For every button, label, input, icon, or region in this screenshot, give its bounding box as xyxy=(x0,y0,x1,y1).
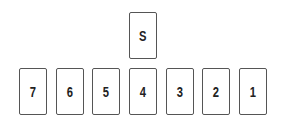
card-label: 6 xyxy=(67,84,73,100)
card-5: 5 xyxy=(92,68,120,115)
card-4: 4 xyxy=(129,68,157,115)
card-label: 7 xyxy=(30,84,36,100)
card-label: 2 xyxy=(213,84,219,100)
card-label: 5 xyxy=(103,84,109,100)
card-6: 6 xyxy=(56,68,84,115)
card-1: 1 xyxy=(239,68,267,115)
card-label: S xyxy=(139,28,146,44)
card-label: 3 xyxy=(177,84,183,100)
card-2: 2 xyxy=(202,68,230,115)
card-7: 7 xyxy=(19,68,47,115)
card-label: 4 xyxy=(140,84,146,100)
card-label: 1 xyxy=(250,84,256,100)
card-s: S xyxy=(129,12,157,59)
card-3: 3 xyxy=(166,68,194,115)
